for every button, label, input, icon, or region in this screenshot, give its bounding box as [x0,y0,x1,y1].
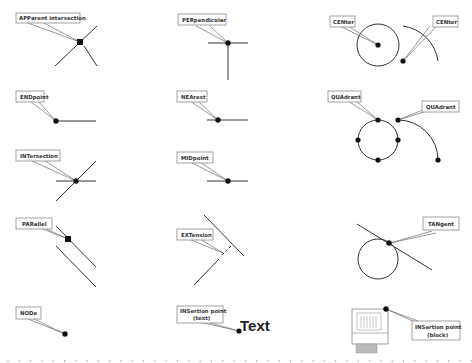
label-midpoint: MIDpoint [181,155,209,162]
block-icon [352,309,388,353]
snap-nearest: NEArest [177,91,248,123]
label-center-1: CENter [333,19,354,25]
label-nearest: NEArest [181,94,206,100]
snap-endpoint: ENDpoint [16,91,96,124]
label-tangent: TANgent [428,221,454,228]
snap-apparent-intersection: APParent intersection [16,13,97,66]
snap-marker-end [435,157,440,162]
label-perpendicular: PERpendicular [182,17,226,24]
line-b [84,46,97,66]
snap-marker-left [355,137,360,142]
snap-marker [77,39,83,45]
label-insertion-block-2: (block) [427,332,448,338]
label-quadrant-1: QUAdrant [331,94,361,100]
diagram-canvas: APParent intersection PERpendicular CENt… [0,0,472,363]
snap-center-arc: CENter [400,16,458,64]
snap-quadrant-circle: QUAdrant [328,91,401,163]
snap-marker [375,42,380,47]
snap-marker [65,236,71,242]
label-quadrant-2: QUAdrant [426,104,456,110]
snap-marker [236,328,241,333]
snap-quadrant-arc: QUAdrant [395,101,459,163]
snap-parallel: PARallel [16,218,96,287]
snap-insertion-text: INSertion point (text) Text [177,306,270,334]
label-insertion-text-2: (text) [193,315,210,321]
sample-text: Text [240,317,270,334]
snap-extension: EXTension [177,215,244,285]
snap-insertion-block: INSertion point (block) [352,306,462,353]
snap-marker [383,306,388,311]
snap-marker [225,40,230,45]
snap-marker-right [395,137,400,142]
snap-marker-top [375,117,380,122]
label-extension: EXTension [181,232,212,238]
snap-midpoint: MIDpoint [177,152,248,184]
snap-marker [62,331,67,336]
label-intersection: INTersection [20,153,58,159]
snap-marker-bottom [375,157,380,162]
snap-marker [73,178,78,183]
snap-marker [225,178,230,183]
snap-center-circle: CENter [330,16,399,66]
label-apparent-intersection: APParent intersection [19,15,86,21]
label-endpoint: ENDpoint [20,94,49,101]
label-node: NODe [20,310,38,316]
snap-node: NODe [16,307,68,337]
osnap-diagram: APParent intersection PERpendicular CENt… [0,0,472,363]
label-insertion-text-1: INSertion point [180,308,227,315]
snap-marker [53,118,58,123]
grid-dots [8,360,471,362]
snap-marker [400,58,405,63]
snap-intersection: INTersection [16,150,96,201]
snap-marker [395,117,400,122]
label-parallel: PARallel [22,221,47,227]
label-center-2: CENter [436,19,457,25]
snap-marker [215,117,220,122]
snap-marker [386,240,391,245]
snap-tangent: TANgent [357,217,459,279]
snap-perpendicular: PERpendicular [178,14,248,80]
label-insertion-block-1: INSertion point [415,324,462,331]
